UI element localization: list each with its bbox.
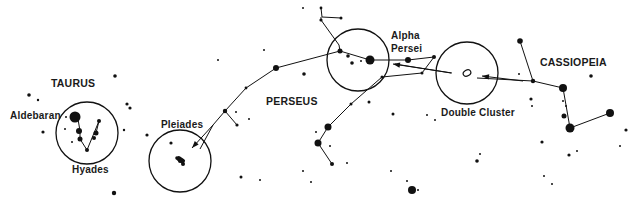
label-double-cluster: Double Cluster [441,107,515,118]
star-icon [562,100,564,102]
star-icon [92,136,96,140]
star-icon [319,18,322,21]
label-alpha-persei: Alpha Persei [391,29,422,55]
star-icon [329,145,331,147]
star-icon [405,57,411,63]
star-icon [338,49,343,54]
star-icon [273,65,279,71]
star-icon [97,119,101,123]
label-aldebaran: Aldebaran [10,110,61,121]
line-perseus-arm [225,111,237,125]
star-icon [27,93,31,97]
star-icon [310,181,312,183]
star-icon [559,84,567,92]
star-icon [390,170,392,172]
star-icon [619,145,621,147]
star-icon [346,54,350,58]
star-icon [562,114,567,119]
star-icon [350,61,354,65]
star-icon [529,97,532,100]
star-icon [169,141,172,144]
double-cluster-icon [462,68,472,77]
star-icon [398,63,400,65]
star-icon [366,56,375,65]
star-icon [64,128,66,130]
star-icon [70,112,81,123]
star-icon [145,133,148,136]
star-icon [112,191,116,195]
star-icon [240,176,243,179]
star-icon [113,74,117,78]
star-icon [421,72,424,75]
star-icon [302,7,304,9]
star-icon [315,131,317,133]
label-pleiades: Pleiades [161,119,203,130]
star-icon [325,124,332,131]
star-icon [71,141,73,143]
star-icon [589,74,593,78]
star-icon [576,150,578,152]
label-cassiopeia: CASSIOPEIA [540,57,607,68]
star-icon [567,153,570,156]
star-icon [65,116,67,118]
star-icon [434,119,436,121]
star-icon [41,130,44,133]
star-icon [432,55,436,59]
star-icon [123,129,125,131]
star-icon [392,113,395,116]
star-icon [76,128,82,134]
star-icon [330,162,334,166]
star-icon [302,72,306,76]
star-icon [235,111,237,113]
star-icon [543,175,545,177]
star-icon [624,128,627,131]
double-cluster-circle [436,42,498,104]
star-icon [259,179,261,181]
star-icon [315,140,322,147]
stars [27,7,627,196]
star-icon [125,102,128,105]
label-perseus: PERSEUS [266,96,318,107]
star-icon [551,183,553,185]
star-icon [531,79,535,83]
cluster-circles [56,29,498,192]
label-hyades: Hyades [72,164,109,175]
star-icon [350,103,353,106]
star-icon [517,38,523,44]
star-icon [245,87,248,90]
star-icon [340,17,343,20]
star-icon [518,73,520,75]
star-icon [346,162,348,164]
star-icon [531,105,533,107]
star-icon [85,148,89,152]
line-perseus-top [321,8,341,18]
star-icon [417,189,419,191]
star-icon [406,180,408,182]
star-icon [263,49,265,51]
star-icon [540,140,543,143]
star-icon [128,106,131,109]
constellation-lines [78,8,610,164]
star-icon [475,159,479,163]
star-icon [217,59,219,61]
star-icon [235,123,238,126]
star-icon [320,7,323,10]
star-icon [606,109,614,117]
star-icon [565,105,567,107]
star-icon [78,137,83,142]
star-icon [479,153,481,155]
star-icon [408,186,416,194]
hyades-circle [56,102,118,164]
label-taurus: TAURUS [51,78,95,89]
star-icon [37,99,39,101]
pointer-arrows [192,62,523,148]
star-icon [360,60,362,62]
star-icon [381,76,384,79]
star-icon [566,124,575,133]
star-icon [302,170,304,172]
star-icon [368,101,371,104]
star-icon [223,109,227,113]
star-icon [426,114,428,116]
star-icon [248,118,250,120]
star-icon [94,131,99,136]
